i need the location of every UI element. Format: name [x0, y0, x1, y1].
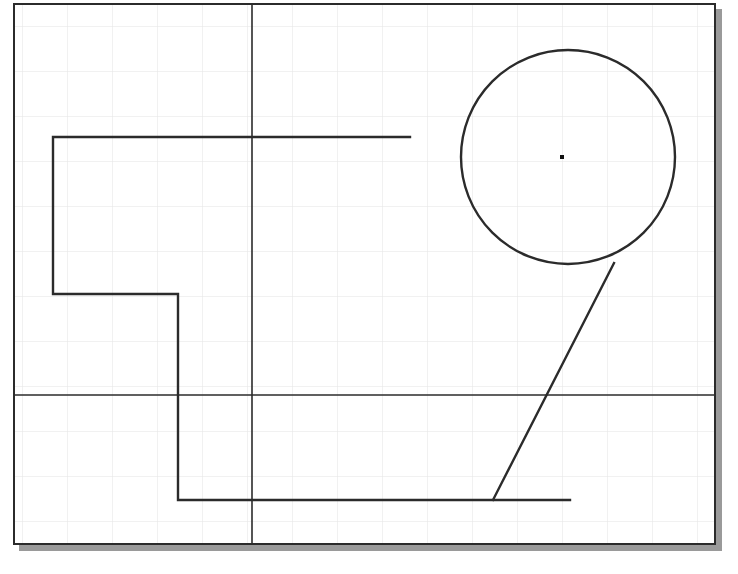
drawing-svg-surface[interactable] — [15, 5, 714, 543]
drawing-application-window — [0, 0, 738, 574]
circle-center-point[interactable] — [560, 155, 564, 159]
drawing-frame[interactable] — [13, 3, 716, 545]
